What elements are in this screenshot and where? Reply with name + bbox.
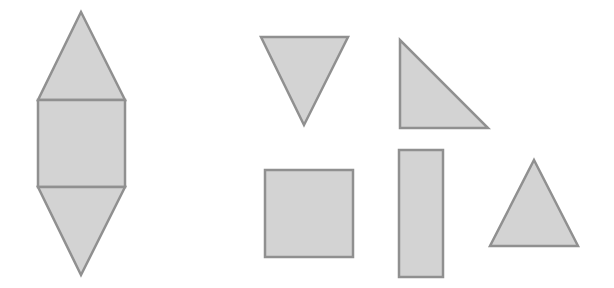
net-square [38, 100, 125, 187]
triangular-prism-net [38, 12, 125, 275]
net-bottom-triangle [38, 187, 125, 275]
tall-rectangle [399, 150, 443, 277]
upright-triangle [490, 160, 578, 246]
net-top-triangle [38, 12, 125, 100]
inverted-triangle [261, 37, 348, 125]
square [265, 170, 353, 257]
separate-shapes [261, 37, 578, 277]
shapes-figure [0, 0, 614, 288]
figure-svg [0, 0, 614, 288]
right-triangle [400, 40, 488, 128]
